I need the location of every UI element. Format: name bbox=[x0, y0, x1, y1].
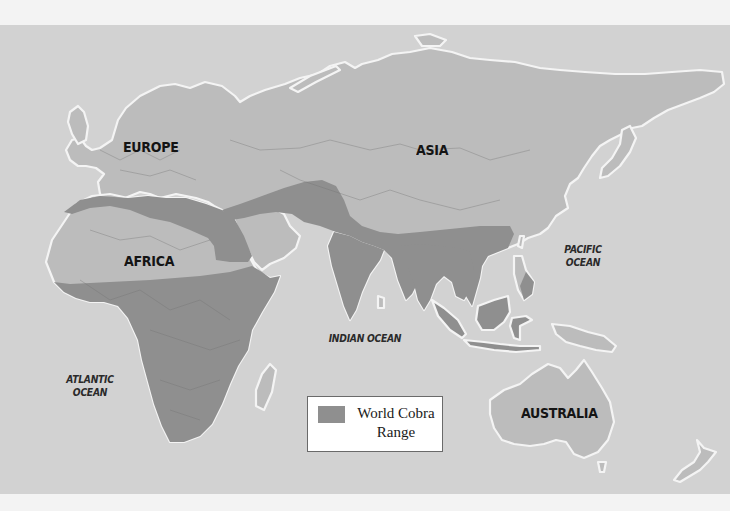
landmass-sumatra bbox=[432, 300, 466, 338]
label-pacific-line1: PACIFIC bbox=[551, 243, 615, 256]
landmass-tasmania bbox=[598, 462, 606, 472]
label-europe: EUROPE bbox=[123, 139, 178, 155]
landmass-sulawesi bbox=[510, 316, 532, 340]
label-africa: AFRICA bbox=[124, 253, 174, 269]
legend-label: World Cobra Range bbox=[351, 404, 441, 442]
label-indian-ocean: INDIAN OCEAN bbox=[314, 332, 415, 345]
legend-swatch-cobra-range bbox=[318, 406, 345, 423]
legend-label-line1: World Cobra bbox=[351, 404, 441, 423]
legend-label-line2: Range bbox=[351, 423, 441, 442]
label-atlantic-ocean: ATLANTIC OCEAN bbox=[55, 373, 125, 399]
landmass-svalbard bbox=[415, 34, 446, 46]
label-atlantic-line1: ATLANTIC bbox=[55, 373, 125, 386]
landmass-borneo bbox=[476, 296, 510, 330]
label-pacific-line2: OCEAN bbox=[551, 256, 615, 269]
landmass-new-guinea bbox=[552, 324, 616, 352]
label-atlantic-line2: OCEAN bbox=[55, 386, 125, 399]
label-pacific-ocean: PACIFIC OCEAN bbox=[551, 243, 615, 269]
landmass-new-zealand bbox=[674, 440, 716, 482]
landmass-madagascar bbox=[256, 364, 276, 410]
landmass-java bbox=[464, 340, 540, 352]
landmass-taiwan bbox=[518, 236, 524, 248]
label-asia: ASIA bbox=[416, 142, 448, 158]
landmass-british-isles bbox=[68, 106, 88, 144]
label-australia: AUSTRALIA bbox=[521, 405, 598, 421]
map-legend: World Cobra Range bbox=[307, 396, 443, 452]
landmass-sri-lanka bbox=[378, 296, 384, 308]
